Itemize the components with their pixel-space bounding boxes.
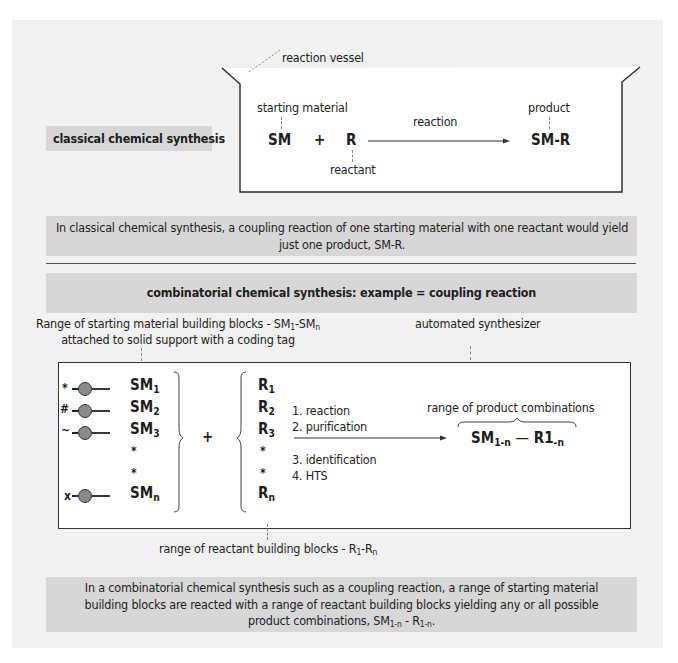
product-brace — [0, 0, 678, 663]
combinatorial-summary: In a combinatorial chemical synthesis su… — [46, 580, 637, 630]
product-combinations: SM1-n — R1-n — [471, 429, 564, 447]
reactant-range-label: range of reactant building blocks - R1-R… — [159, 541, 377, 556]
